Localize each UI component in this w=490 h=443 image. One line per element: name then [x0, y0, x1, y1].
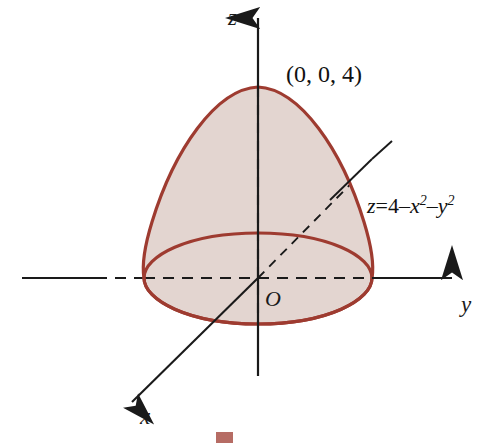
origin-label: O — [265, 286, 281, 311]
equation-x-base: x — [409, 193, 420, 218]
y-axis-label: y — [459, 292, 472, 317]
equation-y-base: y — [436, 193, 448, 218]
equation-constant: 4 — [388, 193, 399, 218]
x-axis-negative-visible — [372, 141, 392, 159]
figure-container: z y x O (0, 0, 4) z=4–x2–y2 — [0, 0, 490, 443]
apex-point-label: (0, 0, 4) — [286, 61, 362, 87]
z-axis-label: z — [227, 5, 237, 30]
equation-y-exponent: 2 — [448, 193, 455, 208]
equation-lhs: z — [366, 193, 376, 218]
surface-equation-label: z=4–x2–y2 — [366, 193, 455, 218]
caption-marker — [216, 432, 233, 443]
x-axis-label: x — [139, 404, 151, 429]
equation-equals: = — [376, 193, 388, 218]
equation-x-exponent: 2 — [420, 193, 427, 208]
paraboloid-figure: z y x O (0, 0, 4) z=4–x2–y2 — [0, 0, 490, 443]
